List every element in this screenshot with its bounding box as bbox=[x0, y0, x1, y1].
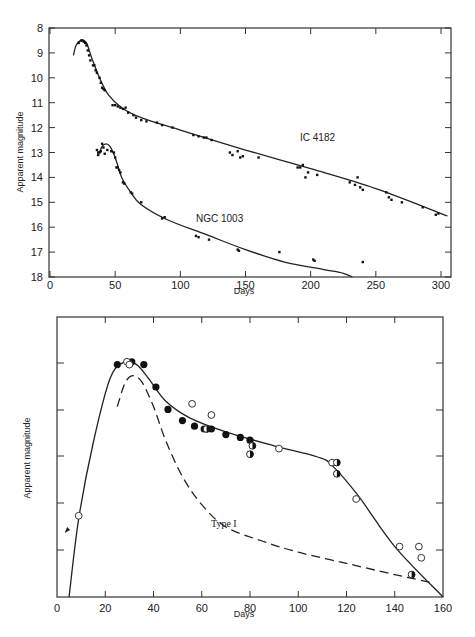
data-point bbox=[119, 106, 121, 108]
filled-circle-point bbox=[208, 425, 215, 432]
top-x-tick-label: 0 bbox=[47, 279, 53, 291]
half-fill bbox=[412, 571, 415, 578]
top-y-tick-label: 15 bbox=[31, 196, 43, 208]
bottom-x-tick-label: 60 bbox=[196, 602, 208, 614]
data-point bbox=[238, 250, 240, 252]
half-fill bbox=[337, 470, 340, 477]
data-point bbox=[102, 146, 104, 148]
data-point bbox=[385, 191, 387, 193]
data-point bbox=[117, 105, 119, 107]
bottom-x-axis-title: Days bbox=[234, 609, 255, 619]
data-point bbox=[229, 151, 231, 153]
data-point bbox=[140, 119, 142, 121]
data-point bbox=[208, 238, 210, 240]
data-point bbox=[156, 121, 158, 123]
bottom-x-tick-label: 40 bbox=[147, 602, 159, 614]
top-y-tick-label: 11 bbox=[32, 97, 43, 109]
fit-curve-solid bbox=[69, 361, 443, 597]
data-point bbox=[205, 136, 207, 138]
data-point bbox=[349, 181, 351, 183]
data-point bbox=[390, 199, 392, 201]
data-point bbox=[98, 77, 100, 79]
top-plot-frame bbox=[49, 28, 451, 277]
data-point bbox=[257, 156, 259, 158]
top-x-tick-label: 50 bbox=[109, 279, 121, 291]
data-point bbox=[362, 189, 364, 191]
filled-circle-point bbox=[191, 423, 198, 430]
data-point bbox=[96, 72, 98, 74]
bottom-chart-data-points bbox=[75, 358, 424, 578]
data-point bbox=[87, 49, 89, 51]
open-circle-point bbox=[396, 543, 403, 550]
bottom-chart-fit-curves bbox=[65, 361, 443, 597]
label-ic-4182: IC 4182 bbox=[300, 132, 335, 143]
top-y-tick-label: 14 bbox=[31, 171, 43, 183]
top-x-tick-label: 300 bbox=[432, 279, 450, 291]
data-point bbox=[161, 217, 163, 219]
top-x-tick-label: 100 bbox=[171, 279, 189, 291]
data-point bbox=[195, 235, 197, 237]
half-filled-circle-point bbox=[333, 470, 340, 477]
data-point bbox=[100, 82, 102, 84]
data-point bbox=[111, 104, 113, 106]
half-filled-circle-point bbox=[333, 459, 340, 466]
data-point bbox=[84, 42, 86, 44]
data-point bbox=[422, 206, 424, 208]
arrow-icon bbox=[65, 527, 71, 533]
bottom-x-tick-label: 100 bbox=[289, 602, 307, 614]
filled-circle-point bbox=[140, 361, 147, 368]
data-point bbox=[299, 166, 301, 168]
open-circle-point bbox=[75, 512, 82, 519]
data-point bbox=[236, 150, 238, 152]
data-point bbox=[104, 89, 106, 91]
bottom-x-tick-label: 160 bbox=[434, 602, 452, 614]
fit-curve bbox=[100, 144, 353, 277]
filled-circle-point bbox=[152, 383, 159, 390]
open-circle-point bbox=[189, 400, 196, 407]
filled-circle-point bbox=[164, 406, 171, 413]
filled-circle-point bbox=[128, 358, 135, 365]
data-point bbox=[93, 64, 95, 66]
data-point bbox=[85, 44, 87, 46]
top-y-tick-label: 10 bbox=[31, 72, 43, 84]
half-fill bbox=[207, 426, 210, 433]
open-circle-point bbox=[276, 445, 283, 452]
data-point bbox=[122, 108, 124, 110]
top-y-axis-title: Apparent magnitude bbox=[15, 111, 25, 192]
bottom-x-tick-label: 0 bbox=[54, 602, 60, 614]
top-y-tick-label: 13 bbox=[31, 147, 43, 159]
data-point bbox=[118, 169, 120, 171]
data-point bbox=[96, 149, 98, 151]
half-filled-circle-point bbox=[408, 571, 415, 578]
bottom-chart-axes: 020406080100120140160 bbox=[54, 317, 452, 614]
data-point bbox=[123, 182, 125, 184]
open-circle-point bbox=[124, 358, 131, 365]
data-point bbox=[117, 166, 119, 168]
data-point bbox=[110, 150, 112, 152]
data-point bbox=[242, 155, 244, 157]
data-point bbox=[401, 201, 403, 203]
top-y-tick-label: 9 bbox=[37, 47, 43, 59]
data-point bbox=[388, 196, 390, 198]
data-point bbox=[135, 116, 137, 118]
top-y-tick-label: 8 bbox=[37, 22, 43, 34]
filled-circle-point bbox=[237, 434, 244, 441]
open-circle-point bbox=[353, 496, 360, 503]
open-circle-point bbox=[208, 412, 215, 419]
data-point bbox=[132, 114, 134, 116]
data-point bbox=[210, 139, 212, 141]
data-point bbox=[101, 143, 103, 145]
data-point bbox=[203, 136, 205, 138]
filled-circle-point bbox=[222, 431, 229, 438]
data-point bbox=[296, 166, 298, 168]
data-point bbox=[437, 212, 439, 214]
data-point bbox=[171, 126, 173, 128]
data-point bbox=[197, 135, 199, 137]
data-point bbox=[316, 174, 318, 176]
half-filled-circle-point bbox=[203, 426, 210, 433]
data-point bbox=[302, 164, 304, 166]
data-point bbox=[89, 59, 91, 61]
top-x-axis-title: Days bbox=[234, 286, 255, 296]
data-point bbox=[127, 111, 129, 113]
data-point bbox=[104, 153, 106, 155]
